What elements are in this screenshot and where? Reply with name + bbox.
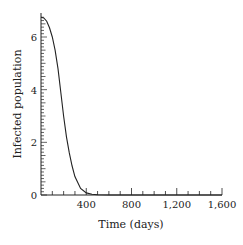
y-ticks: 0246 [31, 32, 37, 201]
x-tick-label: 1,600 [208, 199, 237, 210]
y-axis-title: Infected population [11, 49, 24, 158]
x-tick-label: 800 [122, 199, 141, 210]
y-tick-label: 4 [31, 85, 37, 96]
y-tick-label: 2 [31, 137, 37, 148]
x-axis-title: Time (days) [98, 218, 163, 231]
chart: 4008001,2001,600 0246 Time (days) Infect… [0, 0, 243, 245]
y-minor-ticks [41, 17, 47, 195]
y-tick-label: 6 [31, 32, 37, 43]
infected-curve [41, 17, 222, 195]
x-ticks: 4008001,2001,600 [52, 188, 236, 210]
plot-area: 4008001,2001,600 0246 [31, 13, 237, 210]
x-tick-label: 1,200 [162, 199, 191, 210]
y-tick-label: 0 [31, 190, 37, 201]
x-tick-label: 400 [77, 199, 96, 210]
